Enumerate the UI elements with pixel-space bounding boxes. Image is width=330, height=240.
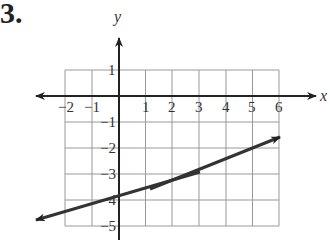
x-tick: −1 <box>84 99 100 115</box>
y-tick: −1 <box>100 114 116 130</box>
y-tick: 1 <box>108 62 116 78</box>
x-tick: 3 <box>195 99 203 115</box>
plotted-line-upper <box>150 137 280 189</box>
y-tick: −2 <box>100 140 116 156</box>
coordinate-graph: x y −2 −1 1 2 3 4 5 6 1 −1 −2 −3 −4 −5 <box>0 0 330 240</box>
y-tick: −5 <box>100 218 116 234</box>
x-axis-label: x <box>319 87 327 104</box>
x-tick: 2 <box>168 99 176 115</box>
y-tick: −3 <box>100 166 116 182</box>
x-tick: 6 <box>275 99 283 115</box>
x-tick: 5 <box>248 99 256 115</box>
x-tick: 4 <box>222 99 230 115</box>
y-axis-label: y <box>112 8 122 26</box>
x-tick: −2 <box>58 99 74 115</box>
x-tick: 1 <box>142 99 150 115</box>
